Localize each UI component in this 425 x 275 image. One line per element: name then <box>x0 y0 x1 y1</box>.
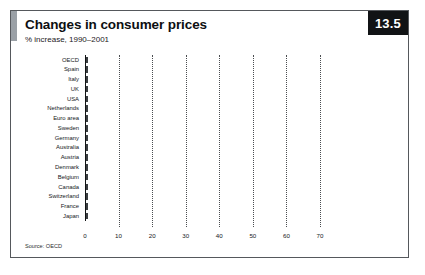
category-label-euro-area: Euro area <box>53 115 79 122</box>
bar-uk <box>86 86 214 93</box>
category-label-netherlands: Netherlands <box>47 105 79 112</box>
bar-australia <box>86 144 188 151</box>
chart-subtitle: % increase, 1990–2001 <box>25 35 109 44</box>
bar-fill <box>86 193 88 200</box>
source-note: Source: OECD <box>25 243 62 249</box>
gridline-50 <box>253 55 254 227</box>
x-tick-10: 10 <box>109 232 129 239</box>
category-label-austria: Austria <box>61 154 79 161</box>
chart-card: 13.5 Changes in consumer prices % increa… <box>10 10 409 258</box>
category-label-italy: Italy <box>68 76 79 83</box>
bar-fill <box>86 76 88 83</box>
bar-austria <box>86 154 183 161</box>
x-tick-0: 0 <box>75 232 95 239</box>
bar-netherlands <box>86 105 197 112</box>
bar-japan <box>86 213 113 220</box>
category-label-france: France <box>61 203 79 210</box>
bar-germany <box>86 135 190 142</box>
bar-canada <box>86 184 170 191</box>
bar-fill <box>86 86 88 93</box>
category-label-oecd: OECD <box>62 57 79 64</box>
chart-page: 13.5 Changes in consumer prices % increa… <box>0 0 425 275</box>
plot-area <box>85 55 320 221</box>
category-labels: OECDSpainItalyUKUSANetherlandsEuro areaS… <box>11 55 83 221</box>
bar-fill <box>86 203 88 210</box>
category-label-australia: Australia <box>56 144 79 151</box>
page-title: Changes in consumer prices <box>25 17 207 32</box>
bar-belgium <box>86 174 175 181</box>
bar-fill <box>86 164 88 171</box>
category-label-japan: Japan <box>63 213 79 220</box>
bar-fill <box>86 115 88 122</box>
x-tick-40: 40 <box>209 232 229 239</box>
bar-france <box>86 203 160 210</box>
gridline-60 <box>286 55 287 227</box>
bar-spain <box>86 66 291 73</box>
category-label-sweden: Sweden <box>58 125 79 132</box>
category-label-usa: USA <box>67 96 79 103</box>
bar-sweden <box>86 125 193 132</box>
x-tick-50: 50 <box>243 232 263 239</box>
bar-fill <box>86 213 88 220</box>
category-label-canada: Canada <box>58 184 79 191</box>
category-label-denmark: Denmark <box>55 164 79 171</box>
x-tick-20: 20 <box>142 232 162 239</box>
category-label-germany: Germany <box>55 135 79 142</box>
x-tick-30: 30 <box>176 232 196 239</box>
bar-switzerland <box>86 193 163 200</box>
bar-italy <box>86 76 220 83</box>
figure-number-badge: 13.5 <box>368 11 408 35</box>
x-tick-60: 60 <box>276 232 296 239</box>
bar-oecd <box>86 57 301 64</box>
accent-bar <box>11 11 17 41</box>
bar-euro-area <box>86 115 195 122</box>
bar-fill <box>86 135 88 142</box>
bar-fill <box>86 57 88 64</box>
category-label-uk: UK <box>71 86 79 93</box>
bar-fill <box>86 66 88 73</box>
gridline-70 <box>320 55 321 227</box>
bar-fill <box>86 96 88 103</box>
category-label-belgium: Belgium <box>58 174 79 181</box>
bar-denmark <box>86 164 178 171</box>
bar-fill <box>86 144 88 151</box>
category-label-spain: Spain <box>64 66 79 73</box>
bar-fill <box>86 174 88 181</box>
category-label-switzerland: Switzerland <box>49 193 79 200</box>
bar-fill <box>86 184 88 191</box>
bar-fill <box>86 105 88 112</box>
bar-fill <box>86 154 88 161</box>
x-tick-70: 70 <box>310 232 330 239</box>
bar-usa <box>86 96 204 103</box>
bar-fill <box>86 125 88 132</box>
